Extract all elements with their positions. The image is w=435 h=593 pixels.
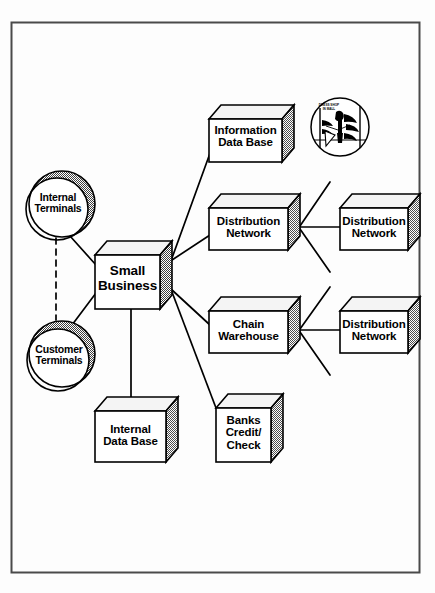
- node-distribution-network-lower-right[interactable]: [340, 297, 420, 353]
- diagram-canvas: Information Data Base Distribution Netwo…: [0, 0, 435, 593]
- link-internal-terminals-to-small-business: [70, 236, 96, 265]
- link-small-business-to-information-data-base: [172, 145, 213, 258]
- node-chain-warehouse[interactable]: [209, 297, 300, 353]
- node-distribution-network-upper-right[interactable]: [340, 194, 420, 250]
- diagram-svg: [0, 0, 435, 593]
- node-small-business[interactable]: [95, 241, 172, 309]
- link-chain-warehouse-spur-down: [300, 332, 330, 375]
- node-internal-data-base[interactable]: [95, 397, 178, 462]
- link-chain-warehouse-spur-up: [300, 287, 330, 329]
- node-internal-terminals[interactable]: [26, 171, 95, 240]
- link-distribution-upper-left-spur-down: [300, 229, 330, 272]
- link-small-business-to-distribution-network-upper-left: [172, 235, 210, 260]
- node-information-data-base[interactable]: [209, 105, 294, 162]
- node-customer-terminals[interactable]: [27, 321, 95, 391]
- link-distribution-upper-left-spur-up: [300, 182, 330, 226]
- node-banks-credit-check[interactable]: [216, 394, 283, 462]
- link-customer-terminals-to-small-business: [72, 293, 96, 325]
- dress-shop-in-mall-illustration: [311, 98, 369, 156]
- node-distribution-network-upper-left[interactable]: [209, 194, 300, 250]
